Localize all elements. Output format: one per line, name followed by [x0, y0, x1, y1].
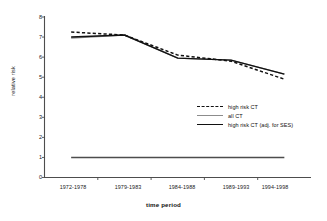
chart-figure: relative risk 8 7 6 5 4 3 2 1 0 1972-197…: [0, 0, 327, 221]
legend-swatch-dashed-icon: [197, 103, 223, 110]
legend-label-high-risk-ct: high risk CT: [228, 104, 258, 110]
legend-swatch-gray-icon: [197, 112, 223, 119]
series-line-high-risk-ct: [71, 32, 284, 79]
legend-swatch-black-icon: [197, 121, 223, 128]
legend-label-all-ct: all CT: [228, 113, 243, 119]
legend-item-all-ct: all CT: [197, 111, 293, 120]
legend-item-high-risk-ct-adj-ses: high risk CT (adj. for SES): [197, 120, 293, 129]
legend-label-high-risk-ct-adj-ses: high risk CT (adj. for SES): [228, 122, 293, 128]
chart-legend: high risk CT all CT high risk CT (adj. f…: [197, 102, 293, 129]
legend-item-high-risk-ct: high risk CT: [197, 102, 293, 111]
